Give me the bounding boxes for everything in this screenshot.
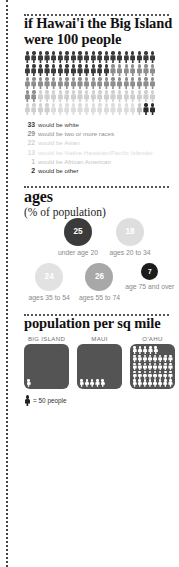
age-bubble: 18 [116,218,144,246]
legend-label: would be white [38,121,79,130]
person-icon [110,103,117,116]
person-icon [31,64,38,77]
ages-subtitle: (% of population) [24,206,175,218]
age-group: 18ages 20 to 34 [104,218,156,257]
person-icon [31,77,38,90]
island-comparison: BIG ISLANDMAUIO'AHU [24,335,175,389]
person-icon [116,64,123,77]
person-icon [143,51,150,64]
person-icon [97,103,104,116]
person-icon [136,51,143,64]
legend-value: 29 [24,130,35,139]
person-icon [123,77,130,90]
person-icon [24,51,31,64]
legend-label: would be two or more races [38,130,114,139]
person-icon [136,103,143,116]
person-icon [90,90,97,103]
person-icon [149,90,156,103]
person-icon [130,77,137,90]
legend-row: 1would be African American [24,158,175,167]
person-icon [143,77,150,90]
person-icon [37,90,44,103]
person-icon [83,77,90,90]
person-icon [168,354,173,362]
age-group: 7age 75 and over [125,263,175,302]
person-icon [31,103,38,116]
person-icon [77,64,84,77]
person-icon [31,51,38,64]
people-legend: 33would be white29would be two or more r… [24,121,175,176]
person-icon [24,90,31,103]
density-key: = 50 people [24,395,175,407]
person-icon [77,51,84,64]
legend-label: would be Asian [38,139,80,148]
age-label: ages 55 to 74 [74,294,124,302]
person-icon [37,103,44,116]
person-icon [24,395,31,407]
island-figure-row [26,379,67,387]
person-icon [97,90,104,103]
person-icon [44,51,51,64]
island-figure-row [132,346,173,354]
person-icon [70,103,77,116]
person-icon [123,90,130,103]
ages-bubble-chart: 25under age 2018ages 20 to 3424ages 35 t… [24,218,175,302]
person-icon [110,64,117,77]
legend-value: 13 [24,149,35,158]
people-section-title: if Hawai'i the Big Island were 100 peopl… [24,16,175,47]
age-label: under age 20 [52,249,104,257]
island-figure-grid [79,379,120,387]
person-icon [130,90,137,103]
island-cell: BIG ISLAND [24,335,69,389]
person-icon [83,90,90,103]
person-icon [44,77,51,90]
person-icon [103,77,110,90]
person-icon [149,77,156,90]
island-cell: O'AHU [130,335,175,389]
person-icon [83,103,90,116]
person-icon [50,90,57,103]
person-icon [57,103,64,116]
person-icon [110,77,117,90]
person-icon [50,64,57,77]
person-icon [110,51,117,64]
density-section-title: population per sq mile [24,316,175,331]
person-icon [57,51,64,64]
island-figure-grid [26,379,67,387]
person-icon [116,90,123,103]
person-icon [143,103,150,116]
person-icon [57,90,64,103]
person-icon [50,77,57,90]
person-icon [37,64,44,77]
island-label: BIG ISLAND [24,335,69,342]
legend-label: would be other [38,167,79,176]
island-label: MAUI [77,335,122,342]
person-icon [136,90,143,103]
person-icon [149,64,156,77]
person-icon [123,51,130,64]
section-100-people: if Hawai'i the Big Island were 100 peopl… [14,14,179,176]
person-icon [44,103,51,116]
person-icon [70,77,77,90]
person-icon [116,51,123,64]
person-icon [70,51,77,64]
person-icon [64,51,71,64]
person-icon [70,64,77,77]
person-icon [90,64,97,77]
island-box [24,344,69,389]
person-icon [103,103,110,116]
age-label: ages 20 to 34 [104,249,156,257]
section-ages: ages (% of population) 25under age 2018a… [14,186,179,302]
legend-label: would be African American [38,158,111,167]
legend-row: 33would be white [24,121,175,130]
person-icon [64,90,71,103]
person-icon [57,64,64,77]
island-label: O'AHU [130,335,175,342]
legend-row: 2would be other [24,167,175,176]
person-icon [37,51,44,64]
person-icon [149,103,156,116]
person-icon [24,64,31,77]
person-icon [103,51,110,64]
age-group: 25under age 20 [52,218,104,257]
person-icon [123,64,130,77]
